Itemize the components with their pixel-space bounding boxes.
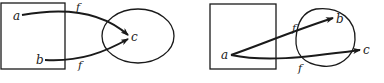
element-c-left: c <box>131 30 138 44</box>
arrow-a-to-c <box>231 50 360 59</box>
element-a-left: a <box>13 9 20 23</box>
arrow-a-to-b <box>231 18 333 55</box>
element-b-left: b <box>36 53 44 67</box>
function-label-bottom-right: f <box>297 62 304 75</box>
function-label-bottom-left: f <box>77 59 84 72</box>
function-mapping-diagrams: a b c f f a b c f f <box>0 0 384 83</box>
arrow-a-to-c <box>22 12 128 35</box>
function-label-top-left: f <box>75 1 82 14</box>
codomain-set-left <box>102 9 174 63</box>
element-b-right: b <box>336 12 344 26</box>
element-c-right: c <box>363 43 370 57</box>
left-diagram: a b c f f <box>1 1 174 72</box>
right-diagram: a b c f f <box>210 4 370 75</box>
element-a-right: a <box>221 48 228 62</box>
codomain-set-right <box>296 9 355 67</box>
